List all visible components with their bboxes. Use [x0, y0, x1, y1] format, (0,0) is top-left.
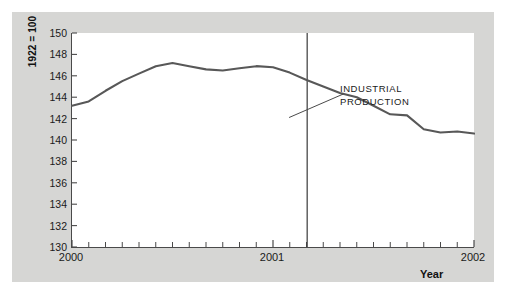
y-tick-label: 146: [33, 71, 67, 81]
y-tick-label: 138: [33, 156, 67, 166]
data-line-industrial-production: [72, 63, 474, 134]
chart-figure: 1922 = 100 13013213413613814014214414614…: [0, 0, 506, 294]
y-tick-label: 148: [33, 49, 67, 59]
y-tick-label: 140: [33, 135, 67, 145]
x-tick-label: 2000: [59, 251, 83, 263]
y-tick-label: 132: [33, 221, 67, 231]
annotation-line-1: INDUSTRIAL: [340, 82, 409, 95]
x-tick-label: 2001: [260, 251, 284, 263]
y-tick-label: 150: [33, 28, 67, 38]
x-tick-marks: [72, 240, 474, 247]
x-tick-label: 2002: [461, 251, 485, 263]
y-tick-label: 144: [33, 92, 67, 102]
y-tick-label: 142: [33, 114, 67, 124]
annotation-industrial-production: INDUSTRIAL PRODUCTION: [340, 82, 409, 108]
annotation-line-2: PRODUCTION: [340, 95, 409, 108]
plot-svg: [72, 33, 474, 247]
y-tick-marks: [72, 33, 77, 247]
y-axis-tick-labels: 130132134136138140142144146148150: [29, 33, 67, 247]
x-axis-title: Year: [420, 268, 443, 280]
y-tick-label: 134: [33, 199, 67, 209]
annotation-leader-line: [289, 94, 343, 118]
plot-area: [71, 33, 474, 248]
y-tick-label: 136: [33, 178, 67, 188]
